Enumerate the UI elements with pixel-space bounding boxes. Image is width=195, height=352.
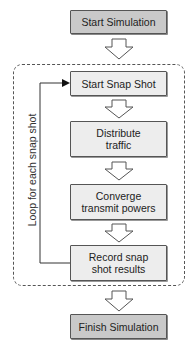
loop-label: Loop for each snap shot [26, 114, 38, 227]
flow-arrow-icon [103, 290, 135, 312]
finish-simulation-node: Finish Simulation [70, 314, 167, 339]
finish-simulation-label: Finish Simulation [79, 321, 159, 333]
